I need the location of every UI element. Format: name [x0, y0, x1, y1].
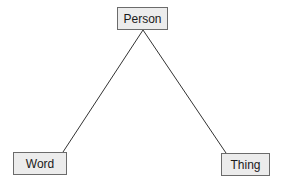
node-thing: Thing: [221, 153, 270, 176]
node-thing-label: Thing: [230, 158, 260, 172]
edge-person-thing: [143, 30, 226, 153]
edge-person-word: [63, 30, 143, 152]
node-word: Word: [13, 152, 67, 175]
node-person-label: Person: [123, 12, 161, 26]
node-word-label: Word: [26, 157, 54, 171]
node-person: Person: [117, 7, 168, 30]
